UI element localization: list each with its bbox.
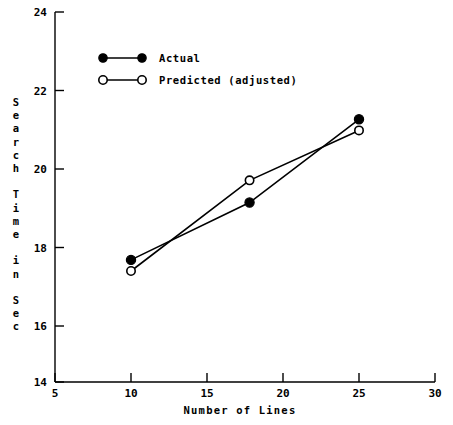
chart-figure: Search Time in Sec 24 22 20 18 16 14 <box>0 0 453 425</box>
y-tick-label-22: 22 <box>34 85 47 98</box>
y-tick-label-24: 24 <box>34 6 48 19</box>
x-tick-label-20: 20 <box>276 387 289 400</box>
data-point-filled <box>354 115 363 124</box>
data-point-open <box>127 267 135 275</box>
filled-circle-icon <box>138 54 146 62</box>
y-tick-label-16: 16 <box>34 320 48 333</box>
series-markers-actual <box>126 115 363 265</box>
y-tick-label-18: 18 <box>34 242 47 255</box>
filled-circle-icon <box>99 54 107 62</box>
open-circle-icon <box>138 76 146 84</box>
y-tick-label-20: 20 <box>34 163 47 176</box>
x-tick-label-10: 10 <box>124 387 137 400</box>
x-tick-label-5: 5 <box>52 387 59 400</box>
data-point-open <box>355 126 363 134</box>
open-circle-icon <box>99 76 107 84</box>
legend-entry-predicted: Predicted (adjusted) <box>99 74 298 86</box>
x-tick-label-15: 15 <box>200 387 213 400</box>
legend-entry-actual: Actual <box>99 52 201 64</box>
data-point-filled <box>126 255 135 264</box>
series-line-actual <box>131 119 359 260</box>
x-tick-label-25: 25 <box>352 387 365 400</box>
legend: Actual Predicted (adjusted) <box>99 52 298 86</box>
y-tick-label-14: 14 <box>34 376 48 389</box>
data-point-filled <box>245 198 254 207</box>
plot-area: 24 22 20 18 16 14 5 10 15 20 25 30 Numbe… <box>0 0 453 425</box>
y-axis-ticks <box>55 12 64 382</box>
legend-label-actual: Actual <box>159 52 201 64</box>
x-axis-title: Number of Lines <box>184 404 297 416</box>
x-axis-ticks <box>55 373 435 382</box>
legend-label-predicted: Predicted (adjusted) <box>159 74 297 86</box>
data-point-open <box>245 176 253 184</box>
x-tick-label-30: 30 <box>428 387 441 400</box>
